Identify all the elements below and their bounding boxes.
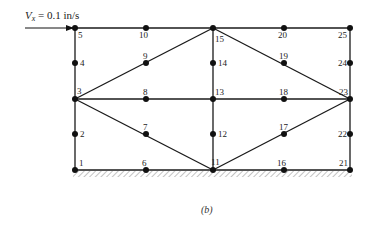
node-label-2: 2 (80, 129, 85, 139)
node-label-24: 24 (338, 58, 348, 68)
node-label-11: 11 (211, 157, 220, 167)
node-24 (347, 60, 353, 66)
node-label-5: 5 (78, 30, 83, 40)
node-label-8: 8 (143, 87, 148, 97)
node-14 (210, 60, 216, 66)
node-label-9: 9 (143, 51, 148, 61)
node-label-16: 16 (277, 158, 287, 168)
node-label-7: 7 (143, 122, 148, 132)
node-label-4: 4 (80, 58, 85, 68)
node-label-15: 15 (215, 34, 225, 44)
node-3 (72, 96, 78, 102)
node-1 (72, 167, 78, 173)
figure-caption: (b) (201, 204, 213, 216)
node-label-21: 21 (339, 158, 348, 168)
node-label-22: 22 (338, 129, 347, 139)
node-label-1: 1 (79, 158, 84, 168)
node-22 (347, 131, 353, 137)
node-4 (72, 60, 78, 66)
node-12 (210, 131, 216, 137)
node-label-12: 12 (218, 129, 227, 139)
node-label-20: 20 (278, 30, 288, 40)
node-2 (72, 131, 78, 137)
finite-element-mesh-diagram: 1234567891011121314151617181920212223242… (0, 0, 368, 228)
node-label-14: 14 (218, 58, 228, 68)
node-label-10: 10 (139, 30, 149, 40)
velocity-value: = 0.1 in/s (35, 9, 79, 21)
node-label-17: 17 (279, 122, 289, 132)
node-label-3: 3 (77, 86, 82, 96)
node-label-23: 23 (339, 87, 349, 97)
node-label-25: 25 (338, 30, 348, 40)
velocity-label: Vx = 0.1 in/s (25, 9, 79, 23)
node-label-19: 19 (279, 51, 289, 61)
node-25 (347, 25, 353, 31)
node-label-13: 13 (215, 87, 225, 97)
node-label-6: 6 (142, 158, 147, 168)
node-15 (210, 25, 216, 31)
node-11 (210, 167, 216, 173)
node-label-18: 18 (279, 87, 289, 97)
